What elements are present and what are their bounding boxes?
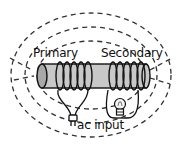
lightbulb-icon <box>115 99 126 119</box>
field-fan-left-1 <box>10 58 32 70</box>
primary-label: Primary <box>33 46 78 60</box>
iron-core <box>37 64 150 88</box>
field-fan-right-2 <box>150 78 170 84</box>
core-left-face <box>37 64 47 88</box>
secondary-label: Secondary <box>101 46 163 60</box>
primary-wires <box>58 90 88 116</box>
field-fan-left-2 <box>14 76 34 80</box>
core-right-end <box>142 64 150 88</box>
transformer-diagram: Primary Secondary ac input <box>0 0 181 151</box>
ac-plug-icon <box>69 115 77 126</box>
ac-input-label: ac input <box>77 118 124 132</box>
